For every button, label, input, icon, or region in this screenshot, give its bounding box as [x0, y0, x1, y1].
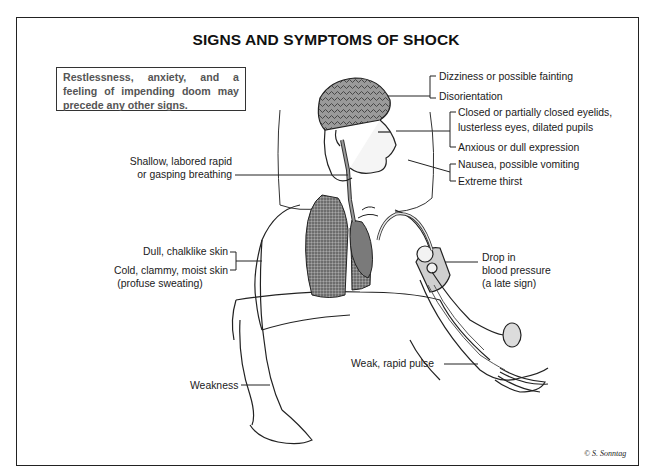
label-eyelids-line1: Closed or partially closed eyelids,	[458, 106, 612, 119]
lungs	[306, 195, 348, 298]
right-arm	[420, 280, 548, 392]
tube	[378, 214, 432, 250]
label-weakness: Weakness	[190, 379, 238, 392]
label-bp-line2: blood pressure	[482, 264, 551, 277]
label-dizziness: Dizziness or possible fainting	[439, 70, 573, 83]
artist-signature: © S. Sonntag	[584, 449, 626, 458]
label-bp-line3: (a late sign)	[482, 277, 536, 290]
label-bp-line1: Drop in	[482, 251, 516, 264]
head-with-brain	[318, 78, 396, 181]
label-eyelids-line2: lusterless eyes, dilated pupils	[458, 121, 593, 134]
label-dull-skin: Dull, chalklike skin	[100, 245, 228, 258]
label-nausea: Nausea, possible vomiting	[458, 158, 579, 171]
label-pulse: Weak, rapid pulse	[351, 357, 434, 370]
label-clammy-skin: Cold, clammy, moist skin	[80, 264, 228, 277]
label-breathing-line1: Shallow, labored rapid	[120, 155, 232, 168]
label-breathing-line2: or gasping breathing	[120, 168, 232, 181]
label-thirst: Extreme thirst	[458, 175, 522, 188]
torso	[255, 200, 440, 330]
label-disorientation: Disorientation	[439, 90, 503, 103]
label-sweating: (profuse sweating)	[100, 277, 220, 290]
left-arm	[240, 240, 312, 444]
label-expression: Anxious or dull expression	[458, 141, 579, 154]
